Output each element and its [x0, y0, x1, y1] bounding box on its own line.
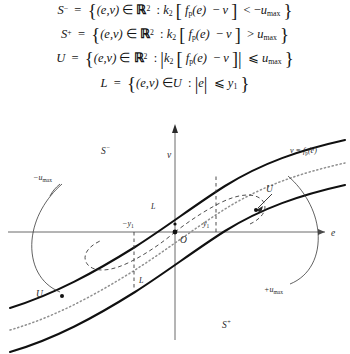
neg-umax-leader-arc — [32, 184, 62, 292]
left-contact-dot — [60, 294, 64, 298]
region-label-u-upper: U — [266, 184, 274, 194]
phase-plane-figure: v e O S− S+ U U L L v = fp(e) −umax +uma… — [0, 112, 350, 354]
equation-block: S− = {(e,v) ∈ ℝ2 : k2 [ fp(e) − v ] < −u… — [0, 2, 350, 99]
equation-s-minus: S− = {(e,v) ∈ ℝ2 : k2 [ fp(e) − v ] < −u… — [0, 2, 350, 21]
l-region-dashed-upper — [175, 195, 265, 232]
fp-curve-label: v = fp(e) — [290, 146, 317, 156]
region-label-u-lower: U — [36, 289, 44, 299]
v-axis-arrowhead — [172, 124, 178, 133]
u-upper-pointer — [258, 194, 272, 208]
e-axis-label: e — [331, 228, 335, 238]
e-axis-arrowhead — [318, 229, 325, 235]
right-contact-dot — [254, 208, 258, 212]
equation-s-plus: S+ = {(e,v) ∈ ℝ2 : k2 [ fp(e) − v ] > um… — [0, 26, 350, 45]
fp-curve-dotted — [10, 163, 345, 330]
region-label-s-minus: S− — [101, 144, 110, 156]
v-axis-label: v — [167, 150, 172, 160]
equation-u: U = {(e,v) ∈ ℝ2 : |k2 [ fp(e) − v ]| ⩽ u… — [0, 50, 350, 69]
origin-label: O — [180, 235, 187, 245]
pos-umax-label: +umax — [264, 285, 283, 295]
region-label-l-lower: L — [138, 276, 144, 285]
equation-l: L = {(e,v) ∈U : |e| ⩽ y1 } — [0, 75, 350, 94]
figure-page: S− = {(e,v) ∈ ℝ2 : k2 [ fp(e) − v ] < −u… — [0, 0, 350, 354]
upper-boundary-curve — [10, 140, 345, 308]
neg-umax-label: −umax — [33, 173, 52, 183]
origin-dot — [173, 230, 178, 235]
upper-y1-dot — [173, 222, 176, 225]
neg-y1-label: −y1 — [122, 219, 134, 229]
region-label-s-plus: S+ — [222, 318, 231, 330]
region-label-l-upper: L — [150, 202, 156, 211]
lower-boundary-curve — [10, 185, 345, 352]
